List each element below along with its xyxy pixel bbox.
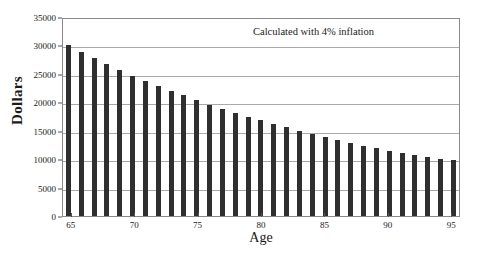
bar-chart-figure: Dollars 05000100001500020000250003000035… bbox=[0, 0, 482, 259]
x-tick-mark bbox=[71, 213, 72, 217]
bar bbox=[271, 124, 276, 216]
y-tick-label: 5000 bbox=[38, 184, 56, 194]
bar bbox=[348, 143, 353, 216]
bar bbox=[400, 153, 405, 216]
x-tick-label: 80 bbox=[257, 220, 266, 230]
bar bbox=[425, 157, 430, 216]
x-tick-mark bbox=[261, 213, 262, 217]
bar bbox=[323, 137, 328, 216]
x-tick-mark bbox=[134, 213, 135, 217]
bar bbox=[207, 105, 212, 216]
x-tick-mark bbox=[324, 213, 325, 217]
chart-annotation: Calculated with 4% inflation bbox=[253, 26, 374, 37]
x-tick-label: 70 bbox=[130, 220, 139, 230]
bar bbox=[130, 76, 135, 216]
x-tick-label: 95 bbox=[447, 220, 456, 230]
bar bbox=[79, 52, 84, 216]
bar bbox=[117, 70, 122, 216]
x-tick-mark bbox=[198, 213, 199, 217]
bar bbox=[310, 134, 315, 216]
y-tick-label: 10000 bbox=[34, 155, 57, 165]
bar bbox=[412, 155, 417, 216]
y-tick-label: 35000 bbox=[34, 13, 57, 23]
bar bbox=[361, 146, 366, 217]
bar bbox=[374, 148, 379, 216]
bar bbox=[297, 131, 302, 216]
bar bbox=[451, 160, 456, 216]
x-tick-label: 75 bbox=[193, 220, 202, 230]
plot-area: Calculated with 4% inflation bbox=[62, 18, 460, 217]
bar bbox=[194, 100, 199, 216]
bar bbox=[246, 117, 251, 217]
bar bbox=[143, 81, 148, 216]
bar bbox=[284, 127, 289, 216]
x-tick-mark bbox=[388, 213, 389, 217]
x-tick-mark bbox=[451, 213, 452, 217]
bar-series bbox=[63, 19, 459, 216]
y-tick-label: 20000 bbox=[34, 98, 57, 108]
y-tick-label: 0 bbox=[52, 212, 57, 222]
y-axis-tick-labels: 05000100001500020000250003000035000 bbox=[0, 0, 62, 259]
y-tick-label: 30000 bbox=[34, 41, 57, 51]
bar bbox=[181, 95, 186, 216]
x-tick-label: 90 bbox=[383, 220, 392, 230]
y-tick-label: 25000 bbox=[34, 70, 57, 80]
y-tick-label: 15000 bbox=[34, 127, 57, 137]
bar bbox=[438, 159, 443, 216]
bar bbox=[156, 86, 161, 216]
bar bbox=[104, 64, 109, 216]
bar bbox=[387, 151, 392, 216]
x-axis-title: Age bbox=[62, 230, 460, 246]
bar bbox=[169, 91, 174, 216]
bar bbox=[92, 58, 97, 216]
bar bbox=[66, 45, 71, 216]
bar bbox=[233, 113, 238, 216]
bar bbox=[258, 120, 263, 216]
x-tick-label: 65 bbox=[66, 220, 75, 230]
bar bbox=[220, 109, 225, 216]
x-tick-label: 85 bbox=[320, 220, 329, 230]
bar bbox=[335, 140, 340, 216]
